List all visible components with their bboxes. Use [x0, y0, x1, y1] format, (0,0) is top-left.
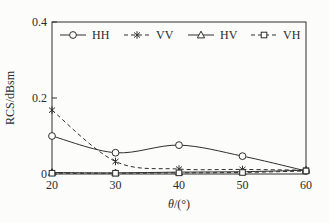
series-vh-marker-glyph: [240, 170, 246, 176]
x-tick-label: 40: [173, 178, 185, 192]
series-vh-marker: [176, 170, 182, 176]
y-tick-label: 0.4: [32, 15, 47, 29]
series-vh-marker: [240, 170, 246, 176]
series-hh-marker-glyph: [112, 149, 119, 156]
series-vh-marker: [303, 168, 309, 174]
legend-label-hh: HH: [92, 28, 110, 42]
legend-marker-vh: [261, 32, 267, 38]
series-vh-marker: [113, 170, 119, 176]
legend-item-hv: HV: [188, 28, 238, 42]
series-hh-marker: [49, 133, 56, 140]
series-hh-marker-glyph: [49, 133, 56, 140]
legend-label-hv: HV: [220, 28, 238, 42]
series-vh-marker-glyph: [113, 170, 119, 176]
x-tick-label: 30: [110, 178, 122, 192]
series-vh-marker-glyph: [49, 170, 55, 176]
legend-marker-hh-glyph: [70, 32, 77, 39]
y-tick-label: 0.2: [32, 91, 47, 105]
series-vh-marker-glyph: [176, 170, 182, 176]
y-axis-label: RCS/dBsm: [3, 70, 17, 125]
x-tick-label: 20: [46, 178, 58, 192]
figure-rcs-vs-theta: 00.20.42030405060RCS/dBsmθ/(°)HHVVHVVH: [0, 0, 329, 223]
series-vh-marker-glyph: [303, 168, 309, 174]
legend-item-vh: VH: [251, 28, 301, 42]
series-hh-marker: [239, 153, 246, 160]
legend-item-hh: HH: [60, 28, 110, 42]
series-vv-line: [52, 110, 306, 170]
series-hh-marker-glyph: [239, 153, 246, 160]
rcs-chart: 00.20.42030405060RCS/dBsmθ/(°)HHVVHVVH: [0, 0, 329, 223]
series-hh-marker: [176, 142, 183, 149]
series-hh-marker-glyph: [176, 142, 183, 149]
legend-label-vh: VH: [283, 28, 301, 42]
series-vv-marker: [49, 106, 55, 114]
legend-marker-hh: [70, 32, 77, 39]
x-tick-label: 50: [237, 178, 249, 192]
legend-label-vv: VV: [156, 28, 174, 42]
legend-item-vv: VV: [124, 28, 174, 42]
plot-frame: [52, 22, 306, 174]
legend-marker-vh-glyph: [261, 32, 267, 38]
x-tick-label: 60: [300, 178, 312, 192]
series-vv-marker: [113, 158, 119, 166]
series-hh-marker: [112, 149, 119, 156]
series-vh-marker: [49, 170, 55, 176]
x-axis-label: θ/(°): [168, 197, 190, 211]
